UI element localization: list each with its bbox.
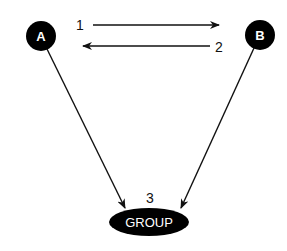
edge-label-1: 1 <box>76 17 84 33</box>
edge-a-to-group <box>47 49 125 208</box>
group-number-label: 3 <box>146 190 154 206</box>
node-b-label: B <box>255 28 264 43</box>
node-a: A <box>26 21 56 51</box>
node-group-label: GROUP <box>125 215 173 230</box>
diagram-canvas: 1 2 A B 3 GROUP <box>0 0 287 251</box>
node-group: GROUP <box>109 208 189 236</box>
edge-b-to-group <box>181 48 254 208</box>
edge-label-2: 2 <box>215 39 223 55</box>
node-a-label: A <box>36 29 46 44</box>
node-b: B <box>245 20 275 50</box>
